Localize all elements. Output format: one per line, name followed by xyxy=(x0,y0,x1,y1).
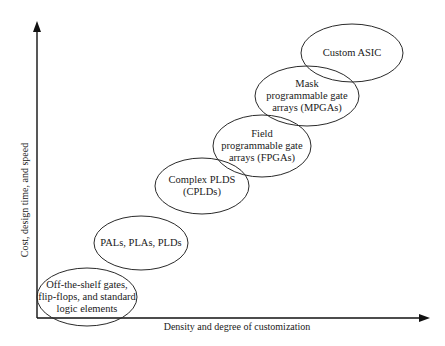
y-axis-label: Cost, design time, and speed xyxy=(19,143,30,257)
node-label-custom-asic: Custom ASIC xyxy=(323,47,382,59)
y-axis-arrow-icon xyxy=(33,21,41,32)
node-label-line: (CPLDs) xyxy=(169,186,236,198)
node-label-pals: PALs, PLAs, PLDs xyxy=(100,237,181,249)
node-label-line: arrays (MPGAs) xyxy=(266,102,347,114)
x-axis-label: Density and degree of customization xyxy=(164,321,311,332)
node-label-line: Mask xyxy=(266,78,347,90)
node-label-line: arrays (FPGAs) xyxy=(221,152,302,164)
node-label-line: flip-flops, and standard xyxy=(38,291,136,303)
node-label-cplds: Complex PLDS(CPLDs) xyxy=(169,174,236,198)
node-label-fpgas: Fieldprogrammable gatearrays (FPGAs) xyxy=(221,128,302,164)
node-label-line: logic elements xyxy=(38,303,136,315)
node-label-off-the-shelf: Off-the-shelf gates,flip-flops, and stan… xyxy=(38,279,136,315)
node-label-mpgas: Maskprogrammable gatearrays (MPGAs) xyxy=(266,78,347,114)
node-label-line: programmable gate xyxy=(221,140,302,152)
node-label-line: PALs, PLAs, PLDs xyxy=(100,237,181,249)
x-axis-arrow-icon xyxy=(419,314,430,322)
node-label-line: Off-the-shelf gates, xyxy=(38,279,136,291)
node-label-line: Custom ASIC xyxy=(323,47,382,59)
positioning-diagram: Off-the-shelf gates,flip-flops, and stan… xyxy=(0,0,445,346)
node-label-line: Field xyxy=(221,128,302,140)
node-label-line: Complex PLDS xyxy=(169,174,236,186)
node-label-line: programmable gate xyxy=(266,90,347,102)
